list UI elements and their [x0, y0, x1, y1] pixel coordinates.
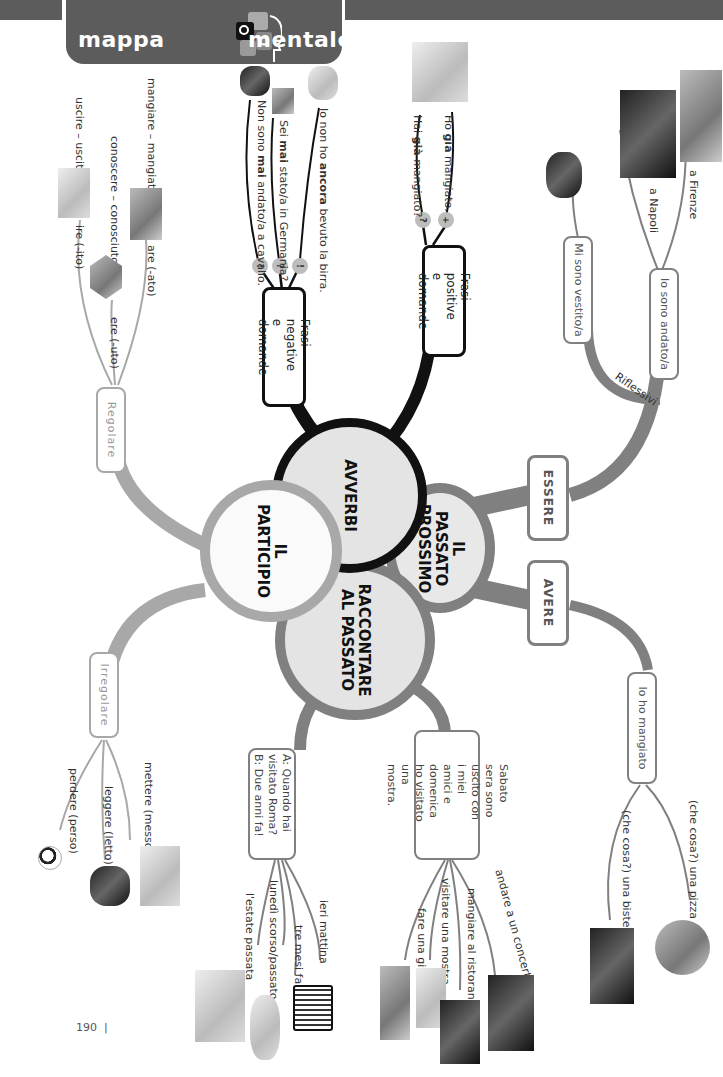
box-io-ho-mangiato[interactable]: Io ho mangiato [627, 672, 657, 784]
photo-lunedi [250, 995, 280, 1060]
photo-beer-mug [308, 66, 338, 100]
label-tre-mesi-fa: tre mesi fa [292, 925, 305, 984]
photo-gita [380, 966, 410, 1040]
photo-plate [412, 42, 468, 102]
photo-ristorante [440, 1000, 480, 1064]
photo-germany-flag [272, 88, 294, 114]
box-regolare[interactable]: Regolare [96, 387, 126, 473]
label-perdere-perso: perdere (perso) [67, 768, 80, 854]
label-leggere-letto: leggere (letto) [102, 786, 115, 865]
box-frasi-negative[interactable]: Frasi negative e domande [262, 287, 306, 407]
photo-leggere [90, 866, 130, 906]
box-story[interactable]: Sabato sera sono uscito con i miei amici… [414, 730, 480, 860]
badge-plus: + [438, 212, 454, 228]
photo-uscire [58, 168, 90, 218]
label-hai-gia-mangiato: Hai già mangiato? [411, 115, 424, 217]
box-frasi-positive[interactable]: Frasi positive e domande [422, 245, 466, 357]
label-estate-passata: l'estate passata [243, 893, 256, 980]
box-io-sono-andato[interactable]: Io sono andato/a [649, 268, 679, 380]
label-ire-ito: ire (-ito) [73, 225, 86, 269]
label-ho-gia-mangiato: Ho già mangiato. [442, 115, 455, 212]
photo-pizza [655, 920, 710, 975]
label-non-mai: Non sono mai andato/a a cavallo. [255, 100, 268, 286]
label-uscire-uscito: uscire – uscito [73, 97, 86, 175]
photo-firenze [680, 70, 722, 162]
box-avere[interactable]: AVERE [527, 560, 569, 646]
label-a-napoli: a Napoli [647, 188, 660, 233]
label-lunedi-scorso: lunedì scorso/passato [267, 880, 280, 999]
label-ieri-mattina: ieri mattina [317, 900, 330, 964]
photo-estate [195, 970, 245, 1042]
label-ere-uto: ere (-uto) [108, 317, 121, 369]
photo-mettere [140, 846, 180, 906]
label-una-bistecca: (che cosa?) una bistecca [620, 810, 633, 946]
label-non-ancora: Io non ho ancora bevuto la birra. [317, 108, 330, 293]
circle-participio[interactable]: IL PARTICIPIO [200, 480, 342, 622]
label-mangiare-mangiato: mangiare – mangiato [145, 78, 158, 195]
badge-exclaim-1: ! [292, 258, 308, 274]
photo-mangiare [130, 188, 162, 240]
label-a-firenze: a Firenze [687, 170, 700, 219]
photo-horse-rider [240, 66, 270, 96]
photo-bistecca [590, 928, 634, 1004]
dialog-line-b: B: Due anni fa! [251, 754, 265, 854]
label-sei-mai: Sei mai stato/a in Germania? [277, 120, 290, 281]
label-mangiare-ristorante: mangiare al ristorante [465, 888, 478, 1011]
page-number: 190 | [76, 1021, 108, 1034]
box-mi-sono-vestito[interactable]: Mi sono vestito/a [563, 236, 593, 344]
dialog-line-a: A: Quando hai visitato Roma? [265, 754, 293, 854]
box-dialog[interactable]: A: Quando hai visitato Roma? B: Due anni… [248, 748, 296, 860]
calendar-icon [293, 985, 333, 1031]
label-una-pizza: (che cosa?) una pizza [687, 800, 700, 919]
label-conoscere-conosciuto: conoscere – conosciuto [108, 136, 121, 264]
photo-concerto [488, 975, 534, 1051]
box-essere[interactable]: ESSERE [527, 455, 569, 541]
photo-dressed-couple [546, 152, 582, 198]
label-mettere-messo: mettere (messo) [142, 762, 155, 854]
soccer-ball-icon [38, 846, 62, 870]
label-are-ato: are (-ato) [145, 245, 158, 297]
box-irregolare[interactable]: Irregolare [89, 652, 119, 738]
photo-napoli [620, 90, 676, 178]
